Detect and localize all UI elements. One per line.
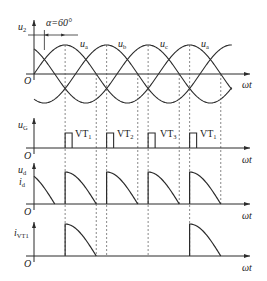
gate-pulse-1 [107,133,114,148]
alpha-arrow-left [44,34,48,37]
origin-label-2: O [24,151,31,161]
alpha-annotation: α=60° [46,18,72,28]
ud-segment-1 [107,172,138,204]
pulse-label-vt1-2: VT1 [200,129,217,141]
y-axis-arrow-iVT1 [32,222,36,228]
curve-label-uc: uc [160,39,168,51]
ivt1-axis-label: iVT1 [14,228,29,240]
curve-label-ub: ub [118,39,126,51]
u2-axis-label: u2 [18,22,26,34]
x-axis-label-4: ωt [242,263,252,273]
ud-segment-2 [148,172,179,204]
y-axis-arrow-uG [32,118,36,124]
waveform-canvas [0,0,267,281]
pulse-label-vt1: VT1 [75,129,92,141]
x-axis-label-2: ωt [242,155,252,165]
ivt1-segment-0 [65,224,96,256]
alpha-arrow-right [61,34,65,37]
y-axis-arrow-u2 [32,20,36,26]
x-axis-arrow-iVT1 [244,254,250,258]
gate-pulse-3 [190,133,197,148]
x-axis-label-1: ωt [242,80,252,90]
ivt1-segment-1 [190,224,221,256]
x-axis-arrow-uG [244,146,250,150]
rectifier-waveform-diagram: u2 α=60° ua ub uc ua O ωt uG VT1 VT2 VT3… [0,0,267,281]
id-axis-label: id [19,177,25,189]
x-axis-label-3: ωt [242,211,252,221]
gate-pulse-0 [65,133,72,148]
x-axis-arrow-ud [244,202,250,206]
pulse-label-vt3: VT3 [160,129,177,141]
curve-label-ua: ua [80,39,88,51]
ug-axis-label: uG [18,120,28,132]
origin-label-4: O [24,259,31,269]
gate-pulse-2 [148,133,155,148]
ud-segment-3 [190,172,221,204]
x-axis-arrow-u2 [244,72,250,76]
curve-label-ua-2: ua [201,39,209,51]
pulse-label-vt2: VT2 [117,129,134,141]
y-axis-arrow-ud [32,163,36,169]
origin-label-3: O [24,207,31,217]
origin-label-1: O [24,76,31,86]
ud-initial-segment [34,176,55,204]
ud-axis-label: ud [18,165,26,177]
ud-segment-0 [65,172,96,204]
